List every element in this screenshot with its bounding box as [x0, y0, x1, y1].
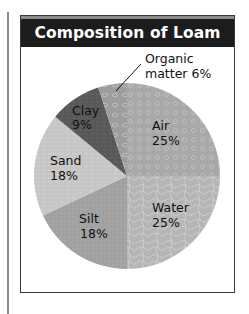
label-water-value: 25% [152, 215, 180, 230]
label-silt-value: 18% [80, 226, 108, 241]
label-silt-name: Silt [79, 211, 99, 226]
pie-chart: Organic matter 6% Clay 9% Air 25% Sand 1… [0, 0, 249, 314]
label-air-name: Air [152, 118, 170, 133]
label-clay-name: Clay [72, 103, 100, 118]
label-air-value: 25% [152, 133, 180, 148]
label-clay-value: 9% [72, 117, 92, 132]
label-sand-name: Sand [50, 153, 81, 168]
label-water-name: Water [152, 200, 190, 215]
label-organic-line2: matter 6% [145, 66, 211, 81]
slice-air [127, 83, 220, 176]
label-organic-line1: Organic [145, 51, 194, 66]
label-sand-value: 18% [50, 168, 78, 183]
